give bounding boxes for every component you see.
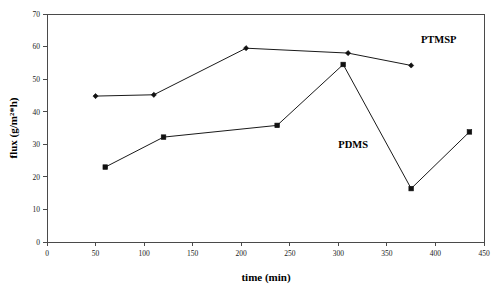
x-tick-label: 50 (92, 249, 100, 258)
x-tick-label: 350 (381, 249, 393, 258)
chart-container: 010203040506070 050100150200250300350400… (0, 0, 501, 289)
data-point-pdms (467, 130, 472, 135)
y-tick-label: 60 (33, 42, 41, 51)
x-tick-label: 300 (333, 249, 345, 258)
x-tick-label: 200 (236, 249, 248, 258)
series-label-pdms: PDMS (338, 139, 368, 150)
y-tick-label: 10 (33, 205, 41, 214)
x-tick-label: 150 (187, 249, 199, 258)
flux-vs-time-chart: 010203040506070 050100150200250300350400… (0, 0, 501, 289)
data-point-pdms (341, 62, 346, 67)
y-tick-label: 30 (33, 140, 41, 149)
y-axis-title: flux (g/m²*h) (7, 97, 20, 158)
data-point-pdms (103, 165, 108, 170)
x-tick-label: 100 (138, 249, 150, 258)
x-axis-title: time (min) (241, 271, 291, 284)
y-tick-label: 0 (36, 238, 40, 247)
x-tick-label: 400 (430, 249, 442, 258)
data-point-pdms (409, 186, 414, 191)
series-label-ptmsp: PTMSP (421, 34, 457, 45)
y-tick-label: 20 (33, 173, 41, 182)
y-tick-label: 50 (33, 75, 41, 84)
y-tick-label: 70 (33, 10, 41, 19)
x-tick-label: 250 (284, 249, 296, 258)
y-tick-label: 40 (33, 108, 41, 117)
data-point-pdms (275, 123, 280, 128)
x-tick-label: 450 (478, 249, 490, 258)
data-point-pdms (161, 135, 166, 140)
x-tick-label: 0 (45, 249, 49, 258)
